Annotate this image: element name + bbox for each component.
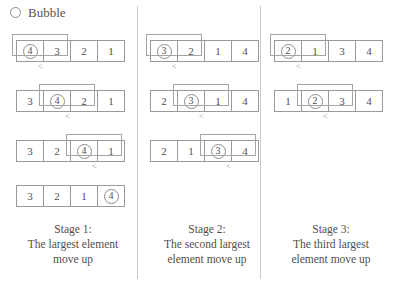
array-cell-highlighted: 3 (204, 140, 232, 162)
array-cell-highlighted: 3 (150, 40, 178, 62)
array-cell-value: 1 (108, 96, 114, 107)
array-cell-value: 4 (242, 46, 248, 57)
array-cell-highlighted: 4 (43, 90, 71, 112)
array-cell: 3 (16, 140, 44, 162)
array-cells: 1234 (274, 90, 383, 112)
array-cells: 2134 (274, 40, 383, 62)
array-cell: 3 (328, 90, 356, 112)
array-cell: 3 (43, 40, 71, 62)
stage-caption-line: move up (8, 252, 138, 267)
array-cell-value: 3 (339, 46, 345, 57)
array-cell-value: 1 (81, 191, 87, 202)
array-cell: 4 (231, 40, 259, 62)
array-cells: 2314 (150, 90, 259, 112)
array-cell-value: 2 (161, 96, 167, 107)
array-cell: 2 (43, 185, 71, 207)
array-cell: 1 (204, 40, 232, 62)
array-cell: 4 (231, 140, 259, 162)
array-cell-value: 3 (27, 96, 33, 107)
array-cell-value: 4 (50, 94, 65, 109)
array-cell-value: 3 (157, 44, 172, 59)
array-cell-highlighted: 4 (70, 140, 98, 162)
array-cells: 2134 (150, 140, 259, 162)
array-cell-value: 4 (23, 44, 38, 59)
array-cell: 2 (150, 90, 178, 112)
array-cells: 3214 (16, 185, 125, 207)
stage-caption-line: The third largest (266, 237, 396, 252)
stage-caption-line: Stage 1: (8, 222, 138, 237)
array-cell: 2 (150, 140, 178, 162)
comparison-symbol: < (296, 63, 301, 71)
array-cells: 3421 (16, 90, 125, 112)
array-cell-value: 3 (339, 96, 345, 107)
comparison-symbol: < (226, 163, 231, 171)
array-cell: 1 (177, 140, 205, 162)
array-cell-highlighted: 2 (274, 40, 302, 62)
comparison-symbol: < (323, 113, 328, 121)
array-cell: 1 (70, 185, 98, 207)
array-cell: 3 (16, 90, 44, 112)
stage-caption: Stage 3:The third largestelement move up (266, 222, 396, 267)
array-cell: 2 (70, 40, 98, 62)
array-cell-value: 1 (215, 46, 221, 57)
array-cell-value: 4 (104, 189, 119, 204)
array-cell-value: 1 (215, 96, 221, 107)
array-cell-value: 3 (54, 46, 60, 57)
stage-caption-line: element move up (142, 252, 272, 267)
stage-caption-line: element move up (266, 252, 396, 267)
array-cell-value: 1 (285, 96, 291, 107)
array-cell: 3 (328, 40, 356, 62)
array-cell-value: 3 (211, 144, 226, 159)
array-cell-highlighted: 3 (177, 90, 205, 112)
array-row: 3214 (16, 185, 125, 207)
comparison-symbol: < (172, 63, 177, 71)
stage-caption-line: The largest element (8, 237, 138, 252)
array-cell-value: 4 (366, 96, 372, 107)
array-row: 3214< (150, 40, 259, 62)
array-row: 1234< (274, 90, 383, 112)
array-cell-value: 2 (281, 44, 296, 59)
array-cell-value: 1 (108, 146, 114, 157)
array-row: 3241< (16, 140, 125, 162)
array-cell: 1 (301, 40, 329, 62)
comparison-symbol: < (199, 113, 204, 121)
array-cell: 1 (97, 90, 125, 112)
array-cells: 3241 (16, 140, 125, 162)
array-cell-value: 2 (308, 94, 323, 109)
stage-column-2: 3214<2314<2134<Stage 2:The second larges… (142, 0, 272, 283)
array-row: 4321< (16, 40, 125, 62)
array-cell: 1 (274, 90, 302, 112)
comparison-symbol: < (92, 163, 97, 171)
stage-caption-line: Stage 2: (142, 222, 272, 237)
array-cell-value: 2 (188, 46, 194, 57)
stage-caption: Stage 1:The largest elementmove up (8, 222, 138, 267)
array-row: 2134< (150, 140, 259, 162)
comparison-symbol: < (38, 63, 43, 71)
array-cell: 3 (16, 185, 44, 207)
array-cells: 4321 (16, 40, 125, 62)
array-cell-value: 1 (188, 146, 194, 157)
array-cell-value: 4 (77, 144, 92, 159)
array-cell-highlighted: 4 (16, 40, 44, 62)
array-cell-value: 4 (242, 96, 248, 107)
stage-caption-line: The second largest (142, 237, 272, 252)
array-cell: 1 (97, 40, 125, 62)
array-row: 2134< (274, 40, 383, 62)
array-cell: 2 (43, 140, 71, 162)
stage-caption-line: Stage 3: (266, 222, 396, 237)
array-cell-value: 4 (366, 46, 372, 57)
array-cell-value: 2 (54, 146, 60, 157)
array-cell: 1 (97, 140, 125, 162)
comparison-symbol: < (65, 113, 70, 121)
array-cell: 1 (204, 90, 232, 112)
array-cell-value: 1 (312, 46, 318, 57)
array-cells: 3214 (150, 40, 259, 62)
array-cell: 2 (70, 90, 98, 112)
array-cell-value: 2 (81, 46, 87, 57)
array-cell: 4 (355, 90, 383, 112)
stage-column-1: 4321<3421<3241<3214Stage 1:The largest e… (8, 0, 138, 283)
array-cell-highlighted: 4 (97, 185, 125, 207)
array-cell: 4 (231, 90, 259, 112)
array-cell-value: 2 (161, 146, 167, 157)
array-cell-value: 1 (108, 46, 114, 57)
